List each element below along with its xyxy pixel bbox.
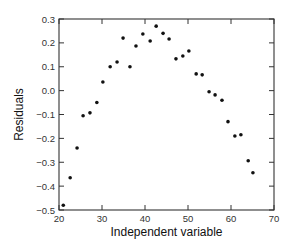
data-point <box>75 146 79 150</box>
data-point <box>181 54 185 58</box>
data-point <box>128 65 132 69</box>
data-point <box>148 39 152 43</box>
y-tick-label: −0.4 <box>36 181 55 192</box>
y-tick-label: −0.2 <box>36 133 55 144</box>
data-point <box>154 24 158 28</box>
data-point <box>213 93 217 97</box>
y-axis-label: Residuals <box>12 88 26 141</box>
data-point <box>194 72 198 76</box>
data-point <box>95 101 99 105</box>
data-point <box>121 36 125 40</box>
y-tick-label: 0.1 <box>42 61 55 72</box>
data-point <box>88 111 92 115</box>
data-point <box>246 159 250 163</box>
data-points <box>62 24 255 207</box>
data-point <box>161 32 165 36</box>
data-point <box>239 133 243 137</box>
y-tick-label: 0.2 <box>42 37 55 48</box>
y-tick-label: −0.3 <box>36 157 55 168</box>
plot-frame <box>59 19 274 210</box>
data-point <box>134 44 138 48</box>
x-tick-label: 30 <box>97 213 108 224</box>
x-tick-label: 70 <box>269 213 280 224</box>
x-axis-label: Independent variable <box>110 225 222 239</box>
y-tick-label: 0.3 <box>42 14 55 25</box>
data-point <box>101 80 105 84</box>
data-point <box>207 90 211 94</box>
x-axis: 203040506070 <box>54 19 280 224</box>
data-point <box>108 65 112 69</box>
y-tick-label: −0.5 <box>36 205 55 216</box>
data-point <box>81 114 85 118</box>
data-point <box>68 176 72 180</box>
y-tick-label: 0.0 <box>42 85 55 96</box>
data-point <box>226 120 230 124</box>
data-point <box>200 73 204 77</box>
data-point <box>62 203 66 207</box>
data-point <box>141 32 145 36</box>
residual-scatter-plot: 203040506070 −0.5−0.4−0.3−0.2−0.10.00.10… <box>0 0 293 250</box>
x-tick-label: 40 <box>140 213 151 224</box>
plot-area <box>59 19 274 210</box>
data-point <box>251 171 255 175</box>
data-point <box>233 134 237 138</box>
x-tick-label: 50 <box>183 213 194 224</box>
data-point <box>167 37 171 41</box>
x-tick-label: 20 <box>54 213 65 224</box>
data-point <box>220 98 224 102</box>
data-point <box>187 49 191 53</box>
x-tick-label: 60 <box>226 213 237 224</box>
y-axis: −0.5−0.4−0.3−0.2−0.10.00.10.20.3 <box>36 14 274 216</box>
y-tick-label: −0.1 <box>36 109 55 120</box>
data-point <box>115 60 119 64</box>
data-point <box>174 57 178 61</box>
